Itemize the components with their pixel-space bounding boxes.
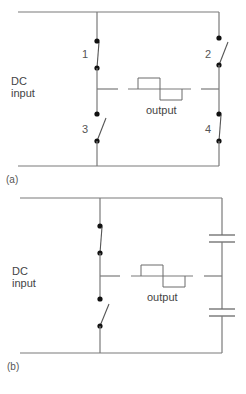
dc-input-label-b: DC input <box>12 265 36 289</box>
switch-3-blade <box>97 118 106 141</box>
output-label-b: output <box>147 291 178 303</box>
diagram-a-full-bridge <box>18 12 228 166</box>
switch-4-label: 4 <box>205 123 211 135</box>
output-label-a: output <box>146 104 177 116</box>
dc-input-label-a: DC input <box>11 75 35 99</box>
lower-switch-blade <box>100 304 109 326</box>
caption-a: (a) <box>6 174 18 185</box>
upper-switch-blade <box>100 227 102 253</box>
dc-label: DC <box>12 265 36 277</box>
switch-1-blade <box>97 42 99 68</box>
input-label: input <box>12 277 36 289</box>
switch-1-contact-top <box>94 38 99 43</box>
switch-3-label: 3 <box>82 123 88 135</box>
switch-4-blade <box>219 115 221 141</box>
input-label: input <box>11 87 35 99</box>
switch-2-label: 2 <box>205 48 211 60</box>
switch-2-contact-top <box>216 35 221 40</box>
switch-1-label: 1 <box>82 48 88 60</box>
diagram-b-half-bridge <box>20 198 235 353</box>
caption-b: (b) <box>7 361 19 372</box>
switch-3-contact-top <box>94 111 99 116</box>
dc-label: DC <box>11 75 35 87</box>
switch-2-blade <box>219 42 228 65</box>
lower-switch-contact-top <box>97 296 102 301</box>
